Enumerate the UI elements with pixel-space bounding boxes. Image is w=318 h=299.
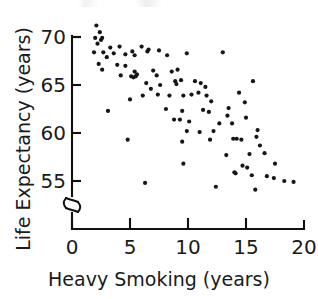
data-point [93, 36, 97, 40]
data-point [151, 69, 155, 73]
data-point [123, 64, 127, 68]
data-point [243, 100, 247, 104]
data-point [203, 85, 207, 89]
data-point [106, 109, 110, 113]
data-point [180, 109, 184, 113]
data-point [193, 79, 197, 83]
data-point [98, 30, 102, 34]
x-tick-marks [72, 218, 304, 229]
data-point [178, 117, 182, 121]
x-tick-label-15: 15 [233, 237, 258, 257]
data-point [117, 45, 121, 49]
data-point [224, 153, 228, 157]
data-point [158, 83, 162, 87]
data-point [247, 152, 251, 156]
data-point [101, 50, 105, 54]
data-point [92, 50, 96, 54]
data-point [207, 110, 211, 114]
data-point [291, 180, 295, 184]
data-point [201, 108, 205, 112]
data-point [157, 48, 161, 52]
data-point [227, 106, 231, 110]
data-point [95, 42, 99, 46]
data-point [187, 119, 191, 123]
data-point [115, 63, 119, 67]
data-point [245, 165, 249, 169]
data-point [94, 23, 98, 27]
data-point [144, 81, 148, 85]
y-axis-title: Life Expectancy (years) [12, 24, 34, 254]
data-point [196, 91, 200, 95]
data-point [105, 55, 109, 59]
data-point [237, 91, 241, 95]
data-point [211, 129, 215, 133]
data-point [143, 181, 147, 185]
data-point [164, 107, 168, 111]
data-point [172, 117, 176, 121]
data-point [230, 121, 234, 125]
data-point [265, 174, 269, 178]
data-point [180, 140, 184, 144]
data-point [179, 78, 183, 82]
data-point [167, 93, 171, 97]
y-axis-break-icon [66, 198, 78, 212]
data-point [189, 93, 193, 97]
data-point [244, 116, 248, 120]
data-point [209, 99, 213, 103]
data-point [256, 128, 260, 132]
data-point [133, 53, 137, 57]
data-point [119, 73, 123, 77]
x-tick-label-0: 0 [66, 237, 79, 257]
data-points-layer [92, 23, 296, 191]
data-point [217, 121, 221, 125]
data-point [208, 138, 212, 142]
data-point [133, 69, 137, 73]
x-tick-label-10: 10 [175, 237, 200, 257]
data-point [214, 185, 218, 189]
data-point [128, 97, 132, 101]
data-point [251, 79, 255, 83]
data-point [258, 143, 262, 147]
data-point [181, 162, 185, 166]
data-point [149, 87, 153, 91]
data-point [204, 93, 208, 97]
data-point [181, 93, 185, 97]
x-axis-title: Heavy Smoking (years) [0, 268, 318, 290]
x-tick-label-20: 20 [291, 237, 316, 257]
data-point [126, 138, 130, 142]
data-point [141, 93, 145, 97]
data-point [174, 82, 178, 86]
data-point [185, 129, 189, 133]
data-point [273, 162, 277, 166]
data-point [146, 47, 150, 51]
data-point [233, 171, 237, 175]
data-point [112, 51, 116, 55]
data-point [239, 138, 243, 142]
x-tick-label-5: 5 [124, 237, 137, 257]
data-point [253, 188, 257, 192]
scatter-plot-figure: 70 65 60 55 0 5 10 15 20 Life Expectancy… [0, 0, 318, 299]
data-point [240, 164, 244, 168]
data-point [108, 45, 112, 49]
data-point [198, 130, 202, 134]
data-point [262, 151, 266, 155]
data-point [185, 51, 189, 55]
data-point [199, 81, 203, 85]
data-point [250, 173, 254, 177]
data-point [140, 45, 144, 49]
data-point [155, 73, 159, 77]
data-point [282, 179, 286, 183]
y-tick-marks [72, 37, 81, 181]
data-point [100, 68, 104, 72]
data-point [170, 69, 174, 73]
data-point [272, 176, 276, 180]
data-point [235, 137, 239, 141]
data-point [225, 114, 229, 118]
data-point [175, 68, 179, 72]
data-point [100, 36, 104, 40]
data-point [130, 49, 134, 53]
data-point [123, 52, 127, 56]
data-point [165, 53, 169, 57]
data-point [221, 50, 225, 54]
data-point [254, 135, 258, 139]
